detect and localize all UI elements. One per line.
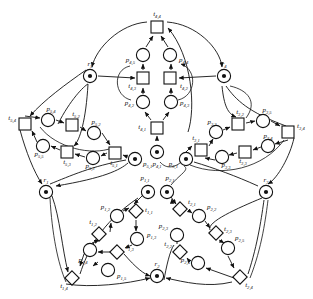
transition[interactable] <box>137 72 149 84</box>
place[interactable] <box>141 185 154 198</box>
transition[interactable] <box>209 226 223 240</box>
place-label: p2,2 <box>206 203 217 213</box>
resource-place-label: r1 <box>43 176 48 185</box>
resource-place-label: r3 <box>263 176 269 185</box>
resource-place[interactable] <box>83 69 96 82</box>
place[interactable] <box>179 152 192 165</box>
place[interactable] <box>83 243 96 256</box>
transition[interactable] <box>195 144 207 156</box>
resource-place-label: r5 <box>87 60 93 69</box>
transition[interactable] <box>282 126 294 138</box>
place-label: p2,3 <box>158 222 169 232</box>
transition-label: t5,2 <box>72 110 80 120</box>
resource-place[interactable] <box>39 185 52 198</box>
place-label: p4,1 <box>151 160 161 170</box>
transition-label: t1,1 <box>145 206 153 216</box>
place-label: p4,4 <box>178 56 189 66</box>
place-label: p4,5 <box>125 56 136 66</box>
transition[interactable] <box>151 122 163 134</box>
place-label: p4,3 <box>179 99 190 109</box>
transition[interactable] <box>173 202 187 216</box>
place[interactable] <box>192 209 205 222</box>
place[interactable] <box>150 145 163 158</box>
place-label: p2,4 <box>180 256 191 266</box>
place-label: p1,2 <box>100 203 111 213</box>
place[interactable] <box>164 95 177 108</box>
transition[interactable] <box>129 204 143 218</box>
place[interactable] <box>261 139 274 152</box>
transition[interactable] <box>19 118 31 130</box>
transition-label: t5,4 <box>8 114 16 124</box>
transition-label: t2,3 <box>224 225 232 235</box>
place[interactable] <box>36 139 49 152</box>
transition-label: t3,4 <box>297 122 305 132</box>
transition[interactable] <box>232 118 244 130</box>
node-layer <box>19 21 294 285</box>
place-label: p1,5 <box>116 272 127 282</box>
place-label: p1,1 <box>139 174 149 184</box>
place[interactable] <box>136 48 149 61</box>
resource-place[interactable] <box>259 185 272 198</box>
transition-label: t3,2 <box>236 108 244 118</box>
place[interactable] <box>163 48 176 61</box>
place-label: p3,2 <box>206 118 217 128</box>
transition-label: t2,4 <box>245 281 253 291</box>
place-label: p4,2 <box>124 99 135 109</box>
place[interactable] <box>221 241 234 254</box>
place[interactable] <box>136 95 149 108</box>
transition[interactable] <box>151 21 163 33</box>
transition-label: t2,2 <box>164 240 172 250</box>
transition[interactable] <box>164 72 176 84</box>
place-label: p5,1 <box>142 160 152 170</box>
transition-label: t5,3 <box>63 158 71 168</box>
place[interactable] <box>128 152 141 165</box>
transition-label: t3,1 <box>192 134 200 144</box>
place[interactable] <box>256 114 269 127</box>
place[interactable] <box>170 228 183 241</box>
transition-label: t4,3 <box>128 82 136 92</box>
petri-net-canvas: t1,1t1,2t1,3t1,4p1,1p1,2p1,3p1,4p1,5t2,1… <box>0 0 313 299</box>
place-label: p2,1 <box>164 174 174 184</box>
place[interactable] <box>110 209 123 222</box>
resource-place[interactable] <box>217 69 230 82</box>
transition-label: t5,1 <box>110 159 118 169</box>
place[interactable] <box>209 125 222 138</box>
place[interactable] <box>191 256 204 269</box>
place[interactable] <box>87 126 100 139</box>
place[interactable] <box>160 185 173 198</box>
transition-label: t1,4 <box>60 282 68 292</box>
transition[interactable] <box>65 271 79 285</box>
transition[interactable] <box>109 147 121 159</box>
transition[interactable] <box>66 119 78 131</box>
place-label: p2,5 <box>234 234 245 244</box>
place[interactable] <box>41 113 54 126</box>
resource-place-label: r2 <box>154 260 160 269</box>
transition[interactable] <box>61 146 73 158</box>
petri-net-figure: t1,1t1,2t1,3t1,4p1,1p1,2p1,3p1,4p1,5t2,1… <box>0 0 313 299</box>
transition-label: t1,2 <box>89 218 97 228</box>
place-label: p3,1 <box>168 160 178 170</box>
resource-place[interactable] <box>150 269 163 282</box>
place-label: p1,3 <box>146 231 157 241</box>
transition[interactable] <box>110 245 124 259</box>
transition-label: t4,1 <box>138 123 146 133</box>
place[interactable] <box>130 232 143 245</box>
transition-label: t4,2 <box>180 82 188 92</box>
transition-label: t4,4 <box>153 10 161 20</box>
resource-place-label: r4 <box>221 60 227 69</box>
place[interactable] <box>101 263 114 276</box>
transition-label: t2,1 <box>188 198 196 208</box>
